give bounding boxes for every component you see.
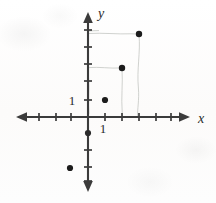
x-unit-label: 1 xyxy=(100,121,107,136)
guide-line-horizontal-middle xyxy=(89,67,122,68)
y-unit-label: 1 xyxy=(69,93,76,108)
x-axis-label: x xyxy=(197,111,205,126)
guide-line-horizontal-upper xyxy=(89,33,139,34)
data-points-group xyxy=(67,31,142,171)
x-axis-left-arrowhead xyxy=(16,112,27,122)
y-axis-bottom-arrowhead xyxy=(83,181,93,192)
y-axis-top-arrowhead xyxy=(83,12,93,23)
data-point-d xyxy=(67,165,73,171)
x-axis-right-arrowhead xyxy=(179,112,190,122)
y-axis-mark-negative-one xyxy=(85,130,91,136)
guide-line-vertical-right xyxy=(138,35,140,117)
y-axis-label: y xyxy=(96,6,105,21)
data-point-a xyxy=(102,97,108,103)
data-point-c xyxy=(136,31,142,37)
guide-lines-group xyxy=(89,31,140,117)
y-axis-group xyxy=(83,12,93,192)
data-point-b xyxy=(119,65,125,71)
coordinate-plane-figure: 1 1 x y xyxy=(0,0,216,203)
coordinate-plot-svg: 1 1 x y xyxy=(0,0,216,203)
